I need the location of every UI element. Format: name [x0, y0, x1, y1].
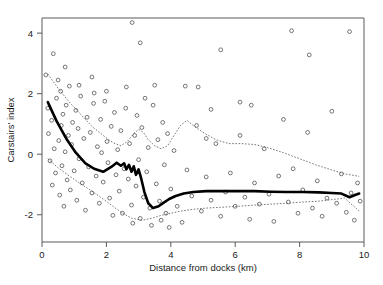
x-tick-label: 10: [359, 249, 370, 260]
scatter-plot: 0246810-2024 Distance from docks (km) Ca…: [0, 0, 383, 285]
y-tick-label: -2: [25, 209, 33, 220]
x-tick-label: 4: [168, 249, 173, 260]
x-tick-label: 0: [39, 249, 44, 260]
y-tick-label: 2: [28, 88, 33, 99]
y-tick-label: 0: [28, 149, 33, 160]
x-tick-label: 8: [297, 249, 302, 260]
y-tick-label: 4: [28, 28, 33, 39]
x-axis-title: Distance from docks (km): [149, 262, 257, 273]
x-tick-label: 2: [104, 249, 109, 260]
y-axis-title: Carstairs' index: [5, 97, 16, 162]
figure-container: 0246810-2024 Distance from docks (km) Ca…: [0, 0, 383, 285]
x-tick-label: 6: [233, 249, 238, 260]
